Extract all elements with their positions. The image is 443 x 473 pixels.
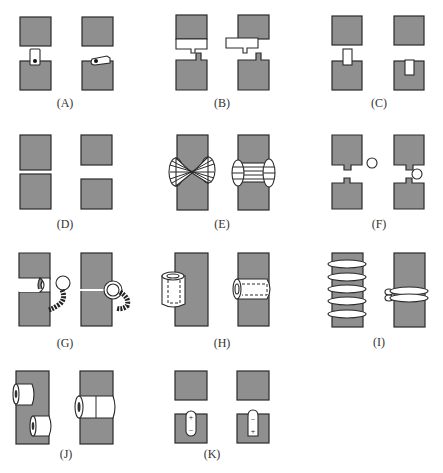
- sleeve-hole: [235, 284, 239, 294]
- upper-block: [176, 15, 207, 39]
- upper-block: [238, 15, 269, 39]
- lower-block: [20, 174, 51, 209]
- ball: [56, 276, 70, 290]
- ring: [367, 158, 377, 168]
- notched-upper-block: [332, 135, 362, 170]
- panel-b: (B): [150, 0, 300, 120]
- tab-rotated: [91, 56, 110, 65]
- panel-c: (C): [290, 0, 443, 120]
- panel-label: (J): [46, 447, 86, 462]
- upper-block: [20, 135, 51, 170]
- upper-block: [237, 371, 269, 400]
- ring-in-gap: [412, 169, 422, 179]
- pivot-dot: [33, 59, 37, 63]
- panel-e: (E): [150, 120, 300, 240]
- panel-label: (G): [45, 336, 85, 351]
- joined-beads: [79, 396, 115, 418]
- minus-sign: −: [189, 426, 194, 435]
- tabbed-lower-block: [394, 178, 424, 209]
- panel-g: (G): [0, 240, 150, 360]
- ball-seated: [107, 284, 119, 296]
- ring: [328, 310, 366, 318]
- minus-sign: −: [251, 415, 256, 424]
- lower-block-stub: [238, 53, 269, 90]
- upper-block: [20, 17, 51, 46]
- lower-block-stub: [176, 53, 207, 90]
- sleeve-body: [237, 279, 270, 299]
- panel-label: (C): [359, 96, 399, 111]
- notched-upper-block: [394, 135, 424, 170]
- ring: [328, 297, 366, 305]
- panel-label: (D): [45, 217, 85, 232]
- plug-seated: [405, 60, 414, 75]
- ring: [328, 285, 366, 293]
- upper-block: [175, 371, 207, 400]
- panel-label: (E): [202, 217, 242, 232]
- ring-stacked: [390, 294, 428, 302]
- sleeve-body: [162, 276, 185, 307]
- panel-d: (D): [0, 120, 150, 240]
- panel-h: (H): [150, 240, 300, 360]
- upper-block: [394, 16, 424, 45]
- panel-label: (K): [192, 447, 232, 462]
- ring: [328, 273, 366, 281]
- upper-block: [332, 16, 362, 45]
- plus-sign: +: [189, 413, 194, 422]
- lower-block: [81, 179, 112, 209]
- plus-sign: +: [251, 427, 256, 436]
- upper-block: [82, 17, 113, 46]
- plug: [343, 49, 352, 65]
- bead-hole: [15, 390, 18, 398]
- panel-j: (J): [0, 360, 150, 473]
- panel-label: (F): [359, 217, 399, 232]
- panel-label: (B): [202, 96, 242, 111]
- panel-k: + − − + (K): [150, 360, 300, 473]
- flap-with-stem: [176, 39, 207, 53]
- panel-label: (A): [45, 96, 85, 111]
- panel-f: (F): [290, 120, 443, 240]
- flap-shifted: [226, 38, 258, 53]
- pivot-dot: [94, 59, 98, 63]
- panel-i: (I): [290, 240, 443, 360]
- tabbed-lower-block: [332, 178, 362, 209]
- sleeve-hole: [167, 274, 179, 278]
- coil-tail: [49, 290, 64, 310]
- upper-block: [81, 135, 112, 165]
- bead-hole: [78, 402, 81, 412]
- panel-label: (I): [359, 335, 399, 350]
- panel-a: (A): [0, 0, 150, 120]
- bead-hole: [32, 422, 35, 430]
- ring: [328, 260, 366, 268]
- panel-label: (H): [202, 336, 242, 351]
- lower-block: [82, 61, 113, 90]
